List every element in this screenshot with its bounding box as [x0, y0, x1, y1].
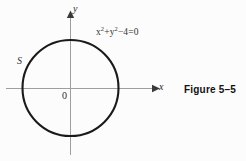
figure-container: x2+y2−4=0 x y 0 S Figure 5–5	[0, 0, 246, 161]
origin-label: 0	[62, 91, 67, 101]
y-axis-label: y	[73, 4, 77, 14]
coordinate-plot	[0, 0, 246, 161]
equation-annotation: x2+y2−4=0	[96, 28, 139, 38]
figure-caption: Figure 5–5	[184, 84, 236, 95]
set-label-s: S	[17, 56, 22, 66]
equation-minus-four: −4	[118, 27, 128, 37]
x-axis-label: x	[159, 82, 163, 92]
equation-equals-zero: =0	[128, 27, 138, 37]
